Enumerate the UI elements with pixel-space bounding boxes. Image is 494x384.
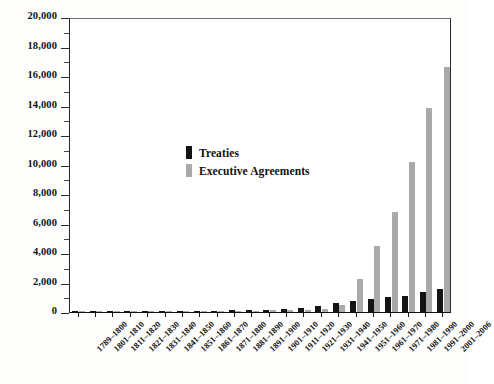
bar-executive-agreements	[148, 311, 154, 312]
bar-executive-agreements	[339, 305, 345, 312]
bar-executive-agreements	[201, 311, 207, 312]
bar-group	[385, 19, 398, 312]
x-axis-tick-mark	[78, 313, 79, 317]
bar-treaties	[229, 310, 235, 312]
x-axis-tick-mark	[217, 313, 218, 317]
y-axis-tick-mark	[61, 77, 69, 78]
bar-executive-agreements	[96, 311, 102, 312]
y-axis-tick-mark	[61, 284, 69, 285]
x-axis: 1789–18001801–18101811–18201821–18301831…	[0, 313, 468, 384]
x-axis-tick-mark	[130, 313, 131, 317]
y-axis-tick-label: 10,000	[28, 158, 57, 169]
x-axis-tick-mark	[425, 313, 426, 317]
bar-executive-agreements	[218, 311, 224, 312]
x-axis-tick-mark	[95, 313, 96, 317]
bar-executive-agreements	[305, 310, 311, 313]
y-axis-tick-label: 4,000	[33, 246, 57, 257]
bar-executive-agreements	[114, 311, 120, 312]
y-axis: 02,0004,0006,0008,00010,00012,00014,0001…	[0, 18, 69, 313]
bar-executive-agreements	[409, 162, 415, 312]
bar-treaties	[281, 309, 287, 312]
bar-group	[72, 19, 85, 312]
chart-legend: Treaties Executive Agreements	[186, 145, 376, 181]
bar-treaties	[315, 306, 321, 312]
y-axis-tick-label: 18,000	[28, 40, 57, 51]
bar-treaties	[211, 311, 217, 312]
x-axis-tick-mark	[182, 313, 183, 317]
bar-executive-agreements	[357, 279, 363, 312]
bar-executive-agreements	[444, 67, 450, 312]
x-axis-tick-mark	[286, 313, 287, 317]
x-axis-tick-mark	[303, 313, 304, 317]
bar-treaties	[72, 311, 78, 312]
legend-item-executive-agreements: Executive Agreements	[186, 163, 376, 178]
bar-group	[159, 19, 172, 312]
bar-treaties	[402, 296, 408, 312]
legend-item-treaties: Treaties	[186, 145, 376, 160]
bar-group	[124, 19, 137, 312]
bar-executive-agreements	[235, 311, 241, 312]
x-axis-tick-mark	[390, 313, 391, 317]
x-axis-tick-mark	[199, 313, 200, 317]
bar-treaties	[420, 292, 426, 312]
bar-treaties	[333, 303, 339, 312]
bar-treaties	[246, 310, 252, 312]
x-axis-tick-mark	[373, 313, 374, 317]
bar-treaties	[90, 311, 96, 312]
x-axis-tick-mark	[321, 313, 322, 317]
y-axis-tick-mark	[61, 225, 69, 226]
x-axis-tick-mark	[269, 313, 270, 317]
y-axis-tick-mark	[61, 195, 69, 196]
bar-executive-agreements	[131, 311, 137, 312]
y-axis-tick-mark	[61, 48, 69, 49]
bar-treaties	[124, 311, 130, 312]
bar-treaties	[350, 301, 356, 312]
y-axis-tick-mark	[61, 254, 69, 255]
x-axis-tick-mark	[234, 313, 235, 317]
x-axis-tick-mark	[408, 313, 409, 317]
bar-group	[420, 19, 433, 312]
bar-executive-agreements	[374, 246, 380, 312]
x-axis-tick-mark	[112, 313, 113, 317]
bar-treaties	[368, 299, 374, 312]
bar-executive-agreements	[79, 311, 85, 312]
bar-executive-agreements	[322, 309, 328, 312]
y-axis-tick-label: 16,000	[28, 69, 57, 80]
bar-executive-agreements	[392, 212, 398, 312]
legend-label-treaties: Treaties	[199, 147, 239, 159]
x-axis-tick-mark	[442, 313, 443, 317]
y-axis-tick-mark	[61, 18, 69, 19]
bar-treaties	[385, 297, 391, 312]
bar-executive-agreements	[270, 310, 276, 312]
y-axis-tick-label: 2,000	[33, 276, 57, 287]
bar-treaties	[159, 311, 165, 312]
x-axis-tick-mark	[356, 313, 357, 317]
x-axis-tick-mark	[251, 313, 252, 317]
bar-treaties	[142, 311, 148, 312]
bar-treaties	[298, 308, 304, 312]
x-axis-tick-mark	[165, 313, 166, 317]
y-axis-tick-label: 8,000	[33, 187, 57, 198]
bar-executive-agreements	[287, 310, 293, 312]
x-axis-tick-mark	[147, 313, 148, 317]
bar-executive-agreements	[166, 311, 172, 312]
bar-group	[107, 19, 120, 312]
x-axis-tick-mark	[338, 313, 339, 317]
plot-area: Treaties Executive Agreements	[69, 18, 451, 313]
legend-swatch-executive-agreements	[186, 164, 192, 177]
legend-swatch-treaties	[186, 146, 192, 159]
y-axis-tick-mark	[61, 107, 69, 108]
bar-group	[402, 19, 415, 312]
y-axis-tick-label: 12,000	[28, 128, 57, 139]
bar-group	[90, 19, 103, 312]
bar-treaties	[263, 310, 269, 312]
bar-treaties	[194, 311, 200, 312]
bar-executive-agreements	[426, 108, 432, 312]
bar-treaties	[177, 311, 183, 312]
y-axis-tick-label: 14,000	[28, 99, 57, 110]
y-axis-tick-mark	[61, 136, 69, 137]
y-axis-tick-mark	[61, 166, 69, 167]
legend-label-executive-agreements: Executive Agreements	[199, 165, 310, 177]
bar-treaties	[107, 311, 113, 312]
